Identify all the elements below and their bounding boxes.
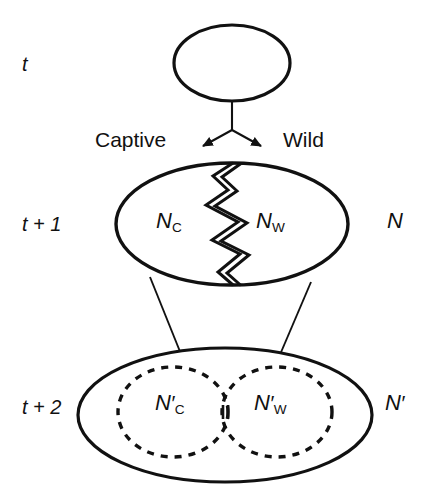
branch-label-captive: Captive xyxy=(95,129,166,150)
time-label-t: t xyxy=(22,54,28,74)
captive-symbol-t1: N xyxy=(156,208,172,233)
captive-subscript-t2: C xyxy=(175,402,185,417)
middle-ellipse xyxy=(116,163,348,285)
time-label-t-plus-2: t + 2 xyxy=(22,397,61,417)
branch-label-wild: Wild xyxy=(283,129,324,150)
total-population-label-t1: N xyxy=(387,210,403,232)
wild-subscript-t1: W xyxy=(272,220,285,235)
diagram-canvas xyxy=(0,0,434,498)
time-label-t-plus-1: t + 1 xyxy=(22,214,61,234)
total-prime-t2: ′ xyxy=(400,391,404,414)
fork-right-arrow xyxy=(232,130,261,146)
captive-population-label-t1: NC xyxy=(156,210,182,232)
captive-subscript-t1: C xyxy=(172,220,182,235)
population-split-diagram: t t + 1 t + 2 Captive Wild NC NW N N′C N… xyxy=(0,0,434,498)
total-symbol-t2: N xyxy=(385,390,401,415)
wild-subscript-t2: W xyxy=(274,402,287,417)
wild-population-label-t1: NW xyxy=(256,210,285,232)
wild-population-label-t2: N′W xyxy=(254,392,287,414)
wild-symbol-t1: N xyxy=(256,208,272,233)
captive-population-label-t2: N′C xyxy=(155,392,185,414)
bottom-ellipse xyxy=(78,348,372,482)
wild-prime-t2: ′ xyxy=(269,391,273,414)
fork-left-arrow xyxy=(203,130,232,146)
captive-prime-t2: ′ xyxy=(170,391,174,414)
total-population-label-t2: N′ xyxy=(385,392,405,414)
top-ellipse xyxy=(174,25,290,101)
captive-symbol-t2: N xyxy=(155,390,171,415)
wild-symbol-t2: N xyxy=(254,390,270,415)
